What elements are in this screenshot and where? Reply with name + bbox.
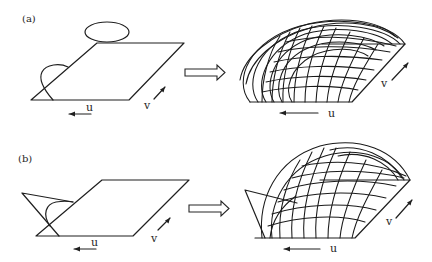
v-axis-label: v (150, 232, 158, 245)
panel-a: (a) u v (22, 13, 408, 120)
v-axis-label: v (143, 99, 151, 112)
panel-a-label: (a) (22, 13, 36, 24)
v-direction-arrow (396, 200, 412, 218)
u-axis-label: u (91, 236, 98, 249)
transform-arrow-icon (185, 65, 225, 80)
u-direction-arrow (284, 247, 320, 252)
u-axis-label: u (86, 101, 93, 114)
panel-b: (b) u v (18, 143, 412, 255)
boundary-arc (46, 201, 73, 226)
panel-b-before: u v (22, 180, 189, 252)
diagram-figure: (a) u v (0, 0, 432, 262)
v-direction-arrow (158, 218, 170, 230)
transform-arrow-icon (189, 201, 229, 216)
panel-a-after: u v (240, 20, 408, 120)
parameter-plane (36, 180, 189, 236)
u-direction-arrow (280, 111, 318, 116)
panel-b-label: (b) (18, 153, 32, 164)
panel-b-after: u v (245, 143, 412, 255)
v-axis-label: v (380, 77, 388, 90)
u-axis-label: u (330, 242, 337, 255)
panel-a-before: u v (31, 22, 184, 117)
wedge-boundary (22, 193, 73, 236)
boundary-half-loop (41, 65, 68, 100)
v-direction-arrow (392, 63, 408, 80)
floating-loop-curve (85, 22, 129, 42)
surface-base-outline (250, 44, 405, 102)
v-direction-arrow (154, 87, 165, 99)
u-axis-label: u (328, 107, 335, 120)
v-axis-label: v (385, 215, 393, 228)
surface-base-outline (255, 180, 410, 238)
